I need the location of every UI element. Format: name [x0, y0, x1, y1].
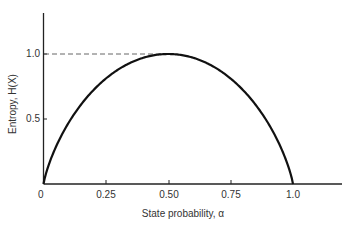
- x-tick-label-0.25: 0.25: [96, 189, 116, 200]
- y-tick-label-1.0: 1.0: [26, 48, 40, 59]
- entropy-curve: [44, 54, 294, 184]
- x-axis-label: State probability, α: [142, 208, 225, 219]
- x-tick-label-0: 0: [38, 189, 44, 200]
- x-tick-label-0.75: 0.75: [221, 189, 241, 200]
- x-tick-label-1.0: 1.0: [286, 189, 300, 200]
- entropy-chart: 0 0.25 0.50 0.75 1.0 0.5 1.0 State proba…: [0, 0, 351, 225]
- x-tick-label-0.50: 0.50: [159, 189, 179, 200]
- y-tick-label-0.5: 0.5: [26, 113, 40, 124]
- y-axis-label: Entropy, H(X): [7, 74, 18, 134]
